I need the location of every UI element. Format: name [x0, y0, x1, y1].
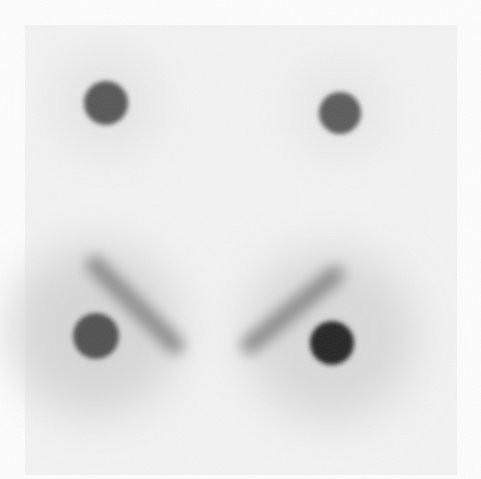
grain-overlay: [25, 25, 457, 475]
autoradiograph-image: [0, 0, 481, 479]
